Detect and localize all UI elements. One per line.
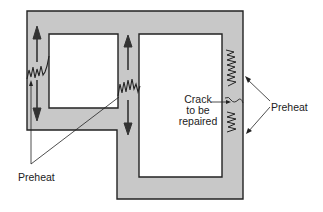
preheat-right-leader-upper xyxy=(247,79,270,101)
preheat-label-left: Preheat xyxy=(18,172,55,183)
preheat-label-right: Preheat xyxy=(271,102,308,113)
crack-label: Crack to be repaired xyxy=(172,94,224,127)
preheat-right-leader-lower xyxy=(248,107,270,132)
crack-label-line-3: repaired xyxy=(172,116,224,127)
